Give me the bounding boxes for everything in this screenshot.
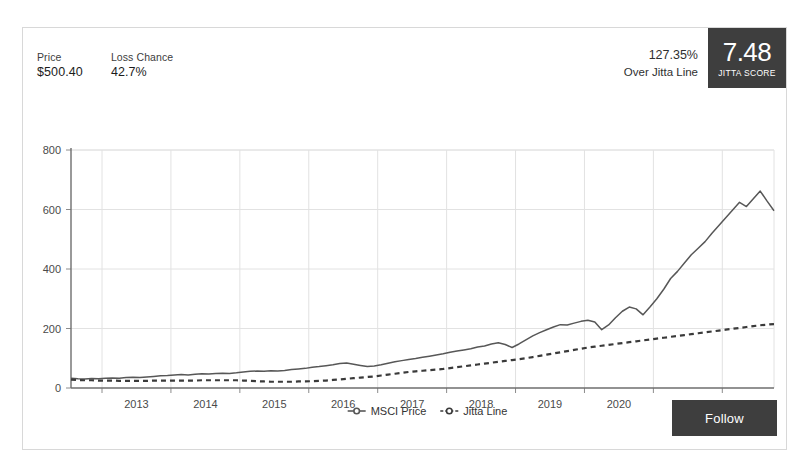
y-tick-label: 800 bbox=[43, 144, 61, 156]
follow-button[interactable]: Follow bbox=[672, 400, 777, 436]
card-header: Price $500.40 Loss Chance 42.7% 127.35% … bbox=[23, 28, 786, 90]
over-jitta-caption: Over Jitta Line bbox=[624, 64, 698, 80]
loss-chance-label: Loss Chance bbox=[111, 50, 173, 64]
jitta-score-value: 7.48 bbox=[723, 38, 772, 66]
stat-price: Price $500.40 bbox=[37, 50, 83, 81]
jitta-score-caption: JITTA SCORE bbox=[718, 67, 775, 79]
y-tick-label: 600 bbox=[43, 204, 61, 216]
loss-chance-value: 42.7% bbox=[111, 64, 173, 81]
series-line-msci-price bbox=[71, 191, 774, 379]
y-tick-label: 400 bbox=[43, 263, 61, 275]
x-tick-label: 2013 bbox=[124, 398, 148, 410]
price-label: Price bbox=[37, 50, 83, 64]
price-value: $500.40 bbox=[37, 64, 83, 81]
series-line-jitta-line bbox=[71, 324, 774, 382]
stock-chart-card: Price $500.40 Loss Chance 42.7% 127.35% … bbox=[22, 27, 787, 450]
x-tick-label: 2016 bbox=[331, 398, 355, 410]
stat-loss-chance: Loss Chance 42.7% bbox=[111, 50, 173, 81]
y-tick-label: 200 bbox=[43, 323, 61, 335]
over-jitta-line-info: 127.35% Over Jitta Line bbox=[624, 28, 708, 80]
x-tick-label: 2020 bbox=[607, 398, 631, 410]
x-tick-label: 2015 bbox=[262, 398, 286, 410]
legend-label: MSCI Price bbox=[371, 405, 427, 417]
x-tick-label: 2014 bbox=[193, 398, 217, 410]
screenshot-root: Price $500.40 Loss Chance 42.7% 127.35% … bbox=[0, 0, 801, 473]
chart-legend: MSCI PriceJitta Line bbox=[348, 405, 508, 417]
price-vs-jitta-line-chart: 0200400600800201320142015201620172018201… bbox=[23, 90, 786, 420]
x-tick-label: 2019 bbox=[538, 398, 562, 410]
y-tick-label: 0 bbox=[55, 382, 61, 394]
jitta-score-badge: 7.48 JITTA SCORE bbox=[708, 28, 786, 88]
over-jitta-percent: 127.35% bbox=[624, 47, 698, 64]
score-area: 127.35% Over Jitta Line 7.48 JITTA SCORE bbox=[624, 28, 786, 88]
legend-marker-dot bbox=[446, 408, 452, 414]
summary-stats: Price $500.40 Loss Chance 42.7% bbox=[37, 50, 173, 81]
legend-label: Jitta Line bbox=[463, 405, 507, 417]
chart-container: 0200400600800201320142015201620172018201… bbox=[23, 90, 786, 420]
legend-marker-dot bbox=[354, 408, 360, 414]
